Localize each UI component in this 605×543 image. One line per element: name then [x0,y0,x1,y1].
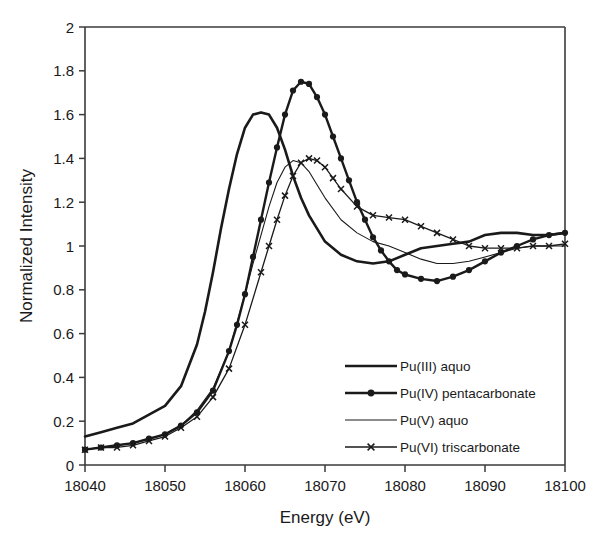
data-point [378,247,384,253]
x-tick-label: 18100 [544,477,586,494]
x-tick-label: 18080 [384,477,426,494]
data-point [210,394,216,400]
data-point [226,366,232,372]
data-point [466,267,472,273]
y-tick-label: 0.4 [53,369,74,386]
legend: Pu(III) aquoPu(IV) pentacarbonatePu(V) a… [330,350,560,462]
data-point [402,271,408,277]
y-axis-title: Normalized Intensity [17,169,36,324]
data-point [338,186,344,192]
legend-label: Pu(VI) triscarbonate [400,440,520,455]
data-point [546,232,552,238]
y-tick-label: 1.2 [53,194,74,211]
data-point [330,133,336,139]
legend-marker [368,390,375,397]
y-tick-label: 0 [66,457,74,474]
data-point [282,193,288,199]
legend-label: Pu(III) aquo [400,359,471,374]
data-point [450,236,456,242]
data-point [418,276,424,282]
y-tick-label: 1.6 [53,106,74,123]
data-point [434,278,440,284]
y-tick-label: 1.8 [53,62,74,79]
data-point [290,87,296,93]
data-point [338,155,344,161]
x-tick-label: 18060 [224,477,266,494]
data-point [330,175,336,181]
data-point [258,217,264,223]
data-point [482,258,488,264]
y-tick-label: 1 [66,238,74,255]
data-point [298,79,304,85]
data-point [322,112,328,118]
data-point [418,223,424,229]
data-point [306,81,312,87]
chart-figure: 00.20.40.60.811.21.41.61.821804018050180… [0,0,605,543]
data-point [274,144,280,150]
legend-label: Pu(V) aquo [400,413,468,428]
data-point [386,258,392,264]
data-point [434,230,440,236]
x-tick-label: 18050 [144,477,186,494]
data-point [362,217,368,223]
data-point [322,164,328,170]
data-point [450,274,456,280]
y-tick-label: 0.6 [53,325,74,342]
x-tick-label: 18040 [64,477,106,494]
data-point [562,230,568,236]
data-point [394,267,400,273]
plot-canvas: 00.20.40.60.811.21.41.61.821804018050180… [0,0,605,543]
x-axis-title: Energy (eV) [280,508,371,527]
data-point [266,179,272,185]
legend-label: Pu(IV) pentacarbonate [400,386,536,401]
data-point [314,94,320,100]
y-tick-label: 1.4 [53,150,74,167]
data-point [346,177,352,183]
y-tick-label: 2 [66,19,74,36]
x-tick-label: 18090 [464,477,506,494]
x-tick-label: 18070 [304,477,346,494]
data-point [282,112,288,118]
y-tick-label: 0.2 [53,413,74,430]
data-point [530,236,536,242]
y-tick-label: 0.8 [53,281,74,298]
data-point [370,234,376,240]
data-point [298,160,304,166]
